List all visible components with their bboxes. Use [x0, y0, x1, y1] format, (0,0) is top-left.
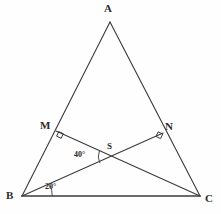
vertex-label-C: C	[205, 193, 213, 204]
right-angle-square-icon-at-N	[156, 132, 163, 139]
vertex-label-M: M	[40, 120, 50, 131]
vertex-label-B: B	[6, 190, 13, 201]
angle-label-20: 20°	[45, 183, 56, 191]
geometry-canvas	[0, 0, 221, 214]
vertex-label-A: A	[104, 3, 112, 14]
segment-BN	[22, 133, 163, 196]
segment-AB	[22, 22, 110, 196]
vertex-label-S: S	[107, 142, 112, 151]
right-angle-square-icon-at-M	[57, 132, 64, 139]
segment-CM	[56, 131, 200, 196]
geometry-diagram: A B C M N S 40° 20°	[0, 0, 221, 214]
vertex-label-N: N	[165, 121, 173, 132]
segment-AC	[110, 22, 200, 196]
angle-label-40: 40°	[74, 151, 85, 159]
